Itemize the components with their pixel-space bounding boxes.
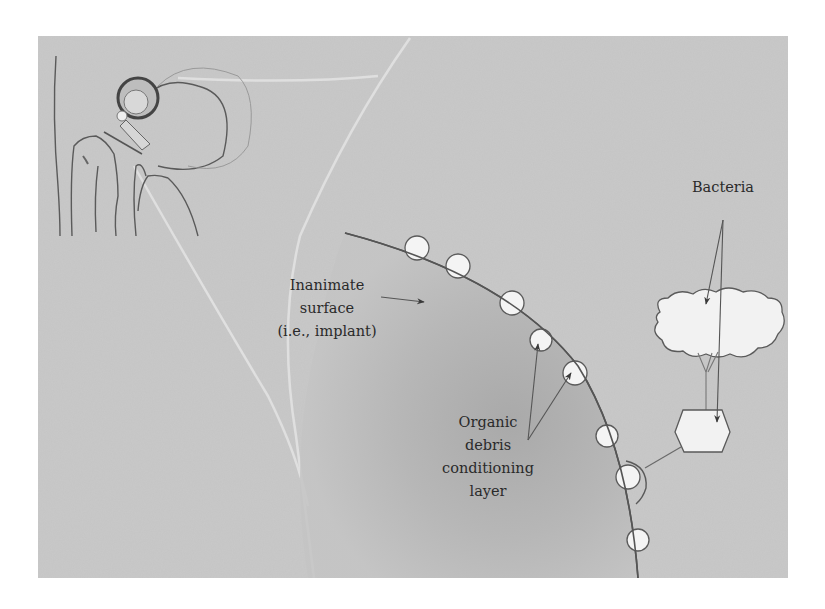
label-line: surface bbox=[272, 297, 382, 320]
label-line: Organic bbox=[433, 411, 543, 434]
label-inanimate-surface: Inanimate surface (i.e., implant) bbox=[272, 274, 382, 343]
bacterium-8 bbox=[627, 529, 649, 551]
label-line: Bacteria bbox=[678, 176, 768, 199]
label-line: conditioning bbox=[433, 457, 543, 480]
bacterium-hexagon bbox=[675, 410, 730, 452]
diagram-canvas bbox=[38, 36, 788, 578]
femoral-head bbox=[117, 111, 127, 121]
bacterium-4 bbox=[530, 329, 552, 351]
bacterium-7 bbox=[616, 465, 640, 489]
label-organic-debris: Organic debris conditioning layer bbox=[433, 411, 543, 503]
label-line: (i.e., implant) bbox=[272, 320, 382, 343]
label-line: layer bbox=[433, 480, 543, 503]
bacterium-5 bbox=[563, 361, 587, 385]
bacterium-6 bbox=[596, 425, 618, 447]
label-line: Inanimate bbox=[272, 274, 382, 297]
biofilm-diagram: Inanimate surface (i.e., implant) Organi… bbox=[38, 36, 788, 578]
label-line: debris bbox=[433, 434, 543, 457]
label-bacteria: Bacteria bbox=[678, 176, 768, 199]
